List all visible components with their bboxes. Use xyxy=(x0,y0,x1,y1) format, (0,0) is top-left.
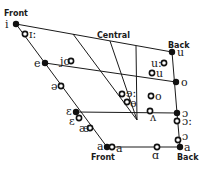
open-dot-marker-icon xyxy=(124,99,129,104)
open-dot-marker-icon xyxy=(148,93,153,98)
cardinal-vowel-label: a xyxy=(97,140,104,153)
vowel-chart: Front Central Back Front Back ieɛauoɔaɪ:… xyxy=(0,0,204,170)
language-vowel-label: ɑ xyxy=(152,149,159,162)
cardinal-vowel-label: o xyxy=(181,76,188,89)
language-vowel-label: ɪ: xyxy=(29,28,36,41)
front-top-label: Front xyxy=(4,9,28,18)
language-vowel-label: ɛ xyxy=(69,115,75,128)
cardinal-vowel-label: e xyxy=(34,57,41,70)
language-vowel-label: o xyxy=(155,90,162,103)
open-dot-marker-icon xyxy=(161,60,166,65)
front-bottom-label: Front xyxy=(91,153,115,162)
cardinal-vowel-label: u xyxy=(177,46,184,59)
filled-dot-marker-icon xyxy=(174,110,180,116)
filled-dot-marker-icon xyxy=(177,144,183,150)
central-label: Central xyxy=(97,31,130,40)
open-dot-marker-icon xyxy=(149,70,154,75)
language-vowel-label: æ xyxy=(79,122,89,135)
chart-frame xyxy=(16,24,180,147)
language-vowel-label: u xyxy=(156,67,163,80)
language-vowel-label: ɔ: xyxy=(182,115,192,128)
filled-dot-marker-icon xyxy=(13,21,19,27)
open-dot-marker-icon xyxy=(119,91,124,96)
open-dot-marker-icon xyxy=(109,144,114,149)
language-vowel-label: ɔ xyxy=(182,130,188,143)
filled-dot-marker-icon xyxy=(169,49,175,55)
language-vowel-label: ə xyxy=(51,80,58,93)
language-vowel-label: ɵ xyxy=(130,97,137,110)
back-bottom-label: Back xyxy=(177,153,199,162)
filled-dot-marker-icon xyxy=(42,60,48,66)
open-dot-marker-icon xyxy=(76,115,81,120)
cardinal-vowel-label: i xyxy=(5,18,9,31)
language-vowel-label: jo xyxy=(58,55,70,68)
open-dot-marker-icon xyxy=(58,83,63,88)
open-dot-marker-icon xyxy=(174,118,179,123)
open-dot-marker-icon xyxy=(175,137,180,142)
open-dot-marker-icon xyxy=(22,31,27,36)
language-vowel-label: ʌ xyxy=(149,111,157,124)
language-vowel-label: a xyxy=(116,142,123,155)
filled-dot-marker-icon xyxy=(173,79,179,85)
